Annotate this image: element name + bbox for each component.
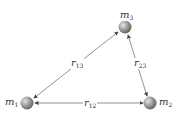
mass-2-sub: 2 [168,101,172,108]
mass-2-label: m2 [158,97,173,108]
mass-3-sub: 3 [129,14,133,21]
mass-1-label: m1 [4,97,19,108]
r12-label: r12 [83,98,97,109]
r13-sub: 13 [76,62,84,69]
r23-sub: 23 [139,62,147,69]
mass-1-sub: 1 [14,101,18,108]
mass-1-sphere [21,97,34,110]
mass-3-sphere [119,21,132,34]
r13-label: r13 [70,58,84,69]
r23-label: r23 [133,58,147,69]
mass-2-sphere [144,97,157,110]
r12-sub: 12 [89,102,97,109]
mass-3-label: m3 [119,10,134,21]
